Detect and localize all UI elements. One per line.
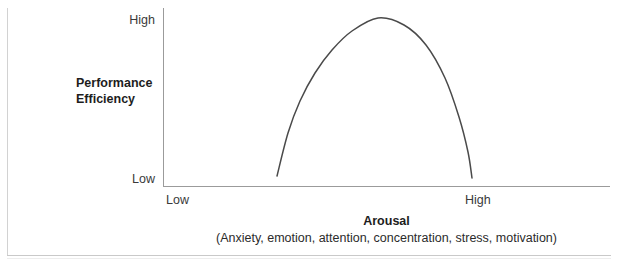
x-axis-subtitle: (Anxiety, emotion, attention, concentrat… bbox=[163, 231, 610, 246]
inverted-u-curve-path bbox=[277, 18, 472, 178]
y-axis-tick-low: Low bbox=[132, 173, 155, 186]
yerkes-dodson-chart-figure: High Low Low High Performance Efficiency… bbox=[0, 0, 618, 264]
figure-frame-left-rule bbox=[7, 8, 8, 256]
figure-frame-bottom-rule-secondary bbox=[7, 258, 611, 259]
x-axis-title: Arousal bbox=[163, 214, 610, 229]
y-axis-title-line-1: Performance bbox=[76, 76, 152, 92]
y-axis-line bbox=[163, 8, 164, 187]
figure-frame-bottom-rule bbox=[7, 255, 611, 256]
y-axis-title: Performance Efficiency bbox=[76, 76, 152, 107]
y-axis-title-line-2: Efficiency bbox=[76, 92, 152, 108]
x-axis-tick-high: High bbox=[465, 194, 491, 207]
x-axis-line bbox=[163, 186, 610, 187]
y-axis-tick-high: High bbox=[129, 14, 155, 27]
x-axis-tick-low: Low bbox=[166, 194, 189, 207]
